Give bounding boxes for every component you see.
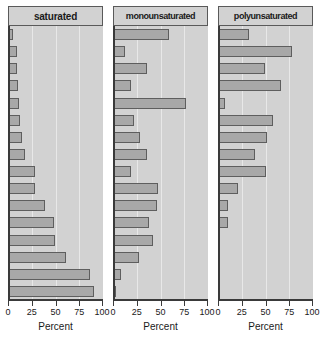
x-tick-label-75: 75 (74, 307, 84, 317)
x-axis-monounsaturated: Percent 0255075100 (113, 301, 208, 341)
x-tick-label-0: 0 (215, 307, 220, 317)
bar-group-polyunsaturated (218, 26, 313, 300)
panel-strip-monounsaturated: monounsaturated (113, 6, 208, 26)
bar (218, 63, 265, 74)
bar (8, 252, 66, 263)
panel-container: saturated Percent 0255075100 monounsatur… (0, 0, 320, 341)
x-axis-title-polyunsaturated: Percent (218, 321, 313, 332)
x-tick-25 (242, 301, 243, 306)
panel-monounsaturated: monounsaturated Percent 0255075100 (105, 0, 210, 341)
panel-strip-saturated: saturated (8, 6, 103, 26)
x-tick-label-75: 75 (284, 307, 294, 317)
bar (8, 286, 94, 297)
x-tick-0 (218, 301, 219, 306)
bar (113, 200, 157, 211)
panel-saturated: saturated Percent 0255075100 (0, 0, 105, 341)
bar (8, 269, 90, 280)
panel-title-monounsaturated: monounsaturated (126, 11, 195, 21)
y-axis-line-monounsaturated (113, 26, 115, 300)
x-tick-label-50: 50 (155, 307, 165, 317)
bar (218, 115, 273, 126)
x-tick-100 (102, 301, 103, 306)
bar (113, 29, 169, 40)
x-tick-75 (184, 301, 185, 306)
panel-title-saturated: saturated (34, 11, 77, 22)
x-tick-50 (161, 301, 162, 306)
bar (8, 183, 35, 194)
plot-area-saturated (8, 26, 103, 300)
x-tick-0 (8, 301, 9, 306)
panel-strip-polyunsaturated: polyunsaturated (218, 6, 313, 26)
x-tick-label-50: 50 (260, 307, 270, 317)
bar (8, 166, 35, 177)
bar (113, 166, 131, 177)
plot-area-monounsaturated (113, 26, 208, 300)
y-axis-line-polyunsaturated (218, 26, 220, 300)
x-tick-50 (266, 301, 267, 306)
bar (218, 183, 238, 194)
bar (8, 235, 55, 246)
x-axis-title-saturated: Percent (8, 321, 103, 332)
x-tick-100 (312, 301, 313, 306)
bar-group-monounsaturated (113, 26, 208, 300)
bar (8, 200, 45, 211)
bar (8, 149, 25, 160)
plot-area-polyunsaturated (218, 26, 313, 300)
x-tick-25 (137, 301, 138, 306)
x-tick-label-50: 50 (50, 307, 60, 317)
bar-group-saturated (8, 26, 103, 300)
bar (218, 149, 255, 160)
x-tick-label-75: 75 (179, 307, 189, 317)
bar (218, 46, 292, 57)
x-tick-label-0: 0 (110, 307, 115, 317)
x-tick-label-0: 0 (5, 307, 10, 317)
bar (218, 80, 281, 91)
bar (113, 98, 186, 109)
x-tick-label-100: 100 (304, 307, 319, 317)
x-tick-75 (289, 301, 290, 306)
x-tick-label-25: 25 (132, 307, 142, 317)
x-tick-100 (207, 301, 208, 306)
bar (113, 217, 149, 228)
x-tick-25 (32, 301, 33, 306)
x-tick-75 (79, 301, 80, 306)
bar (113, 149, 147, 160)
bar (113, 63, 147, 74)
x-axis-polyunsaturated: Percent 0255075100 (218, 301, 313, 341)
bar (113, 115, 134, 126)
x-tick-label-25: 25 (237, 307, 247, 317)
trellis-bar-chart: saturated Percent 0255075100 monounsatur… (0, 0, 320, 341)
bar (218, 132, 267, 143)
bar (113, 132, 140, 143)
bar (8, 132, 22, 143)
panel-title-polyunsaturated: polyunsaturated (234, 11, 297, 21)
x-tick-50 (56, 301, 57, 306)
bar (218, 166, 266, 177)
bar (8, 217, 54, 228)
bar (113, 235, 153, 246)
bar (113, 252, 139, 263)
x-axis-title-monounsaturated: Percent (113, 321, 208, 332)
x-axis-saturated: Percent 0255075100 (8, 301, 103, 341)
x-tick-label-25: 25 (27, 307, 37, 317)
bar (113, 183, 158, 194)
panel-polyunsaturated: polyunsaturated Percent 0255075100 (210, 0, 315, 341)
bar (113, 80, 131, 91)
y-axis-line-saturated (8, 26, 10, 300)
bar (218, 29, 249, 40)
x-tick-0 (113, 301, 114, 306)
